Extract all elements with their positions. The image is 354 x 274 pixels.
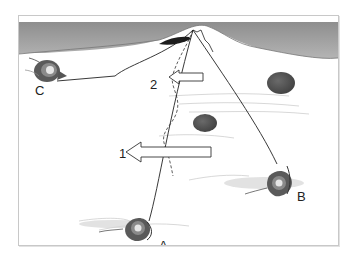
rock-lower: [193, 114, 217, 132]
label-angler-a: A: [159, 239, 168, 246]
line-angler-a: [149, 30, 193, 221]
drift-diagram: [19, 16, 338, 245]
label-angler-b: B: [297, 190, 306, 203]
label-arrow-1: 1: [119, 147, 126, 160]
label-angler-c: C: [35, 84, 44, 97]
current-arrow-2: [169, 70, 203, 84]
illustration-frame: C 2 1 B A: [18, 15, 339, 246]
angler-c-figure: [25, 58, 67, 82]
label-arrow-2: 2: [150, 78, 157, 91]
current-arrow-1: [126, 142, 211, 162]
rock-upper: [267, 72, 295, 94]
line-angler-b: [193, 30, 277, 164]
